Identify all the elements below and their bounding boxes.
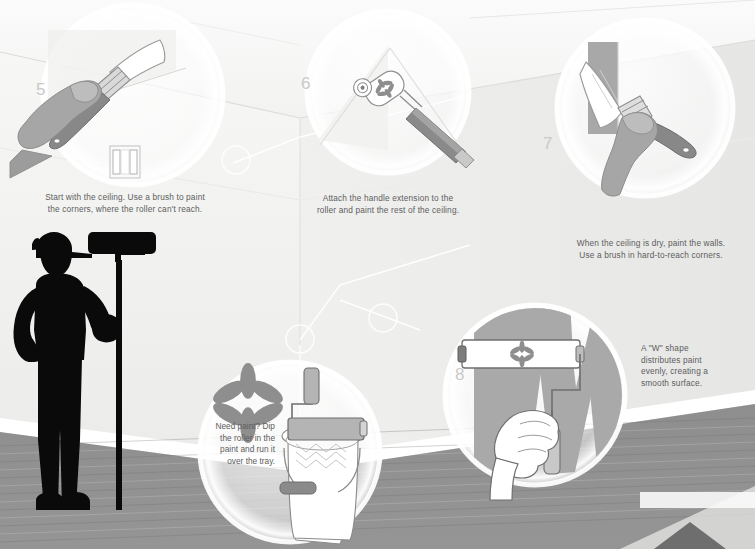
next-page-triangle-icon[interactable] — [654, 522, 726, 549]
bottom-white-strip — [640, 492, 755, 508]
page-arrow-layer[interactable] — [0, 0, 755, 549]
infographic-poster: 5 Start with the ceiling. Use a brush to… — [0, 0, 755, 549]
